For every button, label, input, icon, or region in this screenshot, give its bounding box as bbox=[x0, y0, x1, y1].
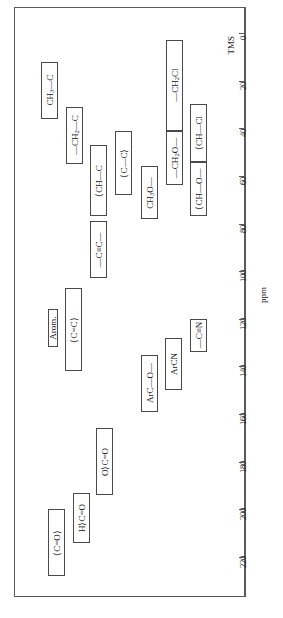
shift-range-band: ArC—O— bbox=[141, 355, 158, 412]
shift-range-band: ArCN bbox=[165, 338, 182, 390]
shift-range-band: —C≡C— bbox=[90, 221, 107, 278]
axis-tick-label: 20 bbox=[238, 82, 248, 90]
shift-range-label: ⟨CH—C bbox=[94, 165, 104, 197]
shift-range-band: Arom. bbox=[48, 309, 58, 347]
nmr-shift-chart: 020406080100120140160180200220 CH3—C—CH2… bbox=[0, 0, 283, 618]
shift-range-band: ⟨CH—C bbox=[90, 145, 107, 216]
shift-range-band: —CH2—C bbox=[66, 107, 83, 164]
shift-range-label: Arom. bbox=[48, 317, 58, 340]
shift-range-band: —CH2Cl bbox=[166, 40, 183, 131]
shift-range-label: ArC—O— bbox=[145, 363, 155, 403]
shift-range-label: ⟨CH—O— bbox=[194, 168, 204, 209]
shift-range-band: CH3O— bbox=[141, 166, 158, 218]
tms-reference-label: TMS bbox=[226, 36, 236, 55]
shift-range-band: H⟩C=O bbox=[73, 493, 90, 543]
shift-range-label: CH3—C bbox=[45, 75, 55, 106]
shift-range-band: ⟨C—C⟩ bbox=[115, 131, 132, 195]
shift-range-band: ⟨CH—O— bbox=[190, 162, 207, 217]
shift-range-label: ⟨CH—Cl bbox=[194, 116, 204, 150]
shift-range-label: —C≡N bbox=[194, 322, 204, 349]
axis-tick-label: 120 bbox=[238, 318, 248, 330]
axis-tick-label: 40 bbox=[238, 129, 248, 137]
shift-range-label: ⟨C=C⟩ bbox=[69, 317, 79, 342]
shift-range-label: —CH2Cl bbox=[170, 69, 180, 102]
shift-range-band: ⟨C=C⟩ bbox=[65, 288, 82, 371]
shift-range-band: CH3—C bbox=[41, 62, 58, 119]
shift-range-band: —C≡N bbox=[190, 319, 207, 352]
shift-range-label: O⟩C=O bbox=[100, 448, 110, 476]
shift-range-label: ⟨C=O⟩ bbox=[52, 530, 62, 556]
shift-range-band: O⟩C=O bbox=[96, 428, 113, 495]
shift-range-band: ⟨C=O⟩ bbox=[48, 509, 65, 576]
shift-range-label: ArCN bbox=[169, 353, 179, 375]
shift-range-label: H⟩C=O bbox=[77, 504, 87, 532]
axis-tick-label: 140 bbox=[238, 366, 248, 378]
axis-tick-label: 100 bbox=[238, 270, 248, 282]
shift-range-band: —CH2O— bbox=[166, 131, 183, 186]
shift-range-label: —CH2O— bbox=[170, 138, 180, 178]
axis-tick-label: 200 bbox=[238, 508, 248, 520]
shift-range-label: —CH2—C bbox=[70, 116, 80, 156]
shift-range-label: —C≡C— bbox=[94, 232, 104, 267]
shift-range-band: ⟨CH—Cl bbox=[190, 104, 207, 161]
shift-range-label: ⟨C—C⟩ bbox=[119, 148, 129, 177]
axis-tick-label: 60 bbox=[238, 177, 248, 185]
axis-tick-label: 160 bbox=[238, 413, 248, 425]
axis-tick-label: 220 bbox=[238, 556, 248, 568]
ppm-axis-title: ppm bbox=[258, 287, 268, 303]
shift-range-label: CH3O— bbox=[145, 177, 155, 208]
axis-tick-label: 180 bbox=[238, 461, 248, 473]
axis-tick-label: 0 bbox=[238, 36, 248, 40]
axis-tick-label: 80 bbox=[238, 225, 248, 233]
axis-tick bbox=[239, 33, 246, 34]
